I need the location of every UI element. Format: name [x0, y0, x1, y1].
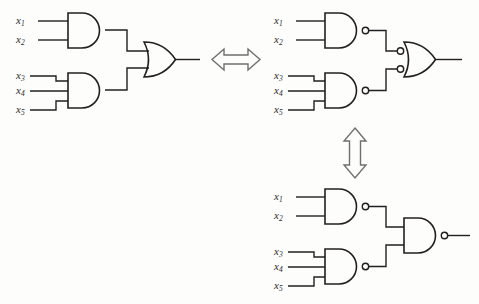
- gate-and-g2: [30, 73, 100, 110]
- gate-nand-g7: [296, 189, 369, 224]
- gate-nand-g4: [296, 13, 369, 48]
- input-label-x2: x2: [274, 210, 283, 223]
- circuit-drawing: [0, 0, 479, 304]
- gate-nand-g9: [404, 218, 470, 253]
- input-label-x2: x2: [274, 34, 283, 47]
- input-label-x5: x5: [274, 104, 283, 117]
- input-label-x2: x2: [16, 34, 25, 47]
- input-label-x3: x3: [16, 70, 25, 83]
- output-bubble-icon: [362, 203, 368, 209]
- gate-or-g3: [144, 42, 200, 77]
- interconnect-wires-left: [105, 30, 149, 90]
- horizontal-equivalence-arrow: [212, 49, 260, 70]
- input-bubble-icon: [397, 66, 403, 72]
- gate-nand-g8: [288, 249, 369, 286]
- output-bubble-icon: [441, 232, 447, 238]
- input-label-x1: x1: [274, 15, 283, 28]
- and-or-circuit-group: [30, 13, 200, 110]
- input-label-x3: x3: [274, 246, 283, 259]
- input-label-x4: x4: [274, 85, 283, 98]
- output-bubble-icon: [362, 263, 368, 269]
- input-label-x1: x1: [274, 191, 283, 204]
- input-label-x5: x5: [16, 104, 25, 117]
- gate-or-inverted-inputs-g6: [397, 42, 462, 77]
- interconnect-wires-bottom: [369, 207, 404, 267]
- input-label-x4: x4: [274, 261, 283, 274]
- input-label-x5: x5: [274, 280, 283, 293]
- vertical-equivalence-arrow: [344, 128, 366, 178]
- logic-circuit-equivalence-figure: x1 x2 x3 x4 x5 x1 x2 x3 x4 x5 x1 x2 x3 x…: [0, 0, 479, 304]
- input-label-x1: x1: [16, 15, 25, 28]
- interconnect-wires-top-right: [369, 31, 398, 91]
- output-bubble-icon: [362, 87, 368, 93]
- input-bubble-icon: [397, 48, 403, 54]
- input-label-x3: x3: [274, 70, 283, 83]
- gate-nand-g5: [288, 73, 369, 110]
- gate-and-g1: [38, 13, 100, 48]
- all-nand-circuit-group: [288, 189, 470, 286]
- input-label-x4: x4: [16, 85, 25, 98]
- nand-into-or-circuit-group: [288, 13, 462, 110]
- output-bubble-icon: [362, 27, 368, 33]
